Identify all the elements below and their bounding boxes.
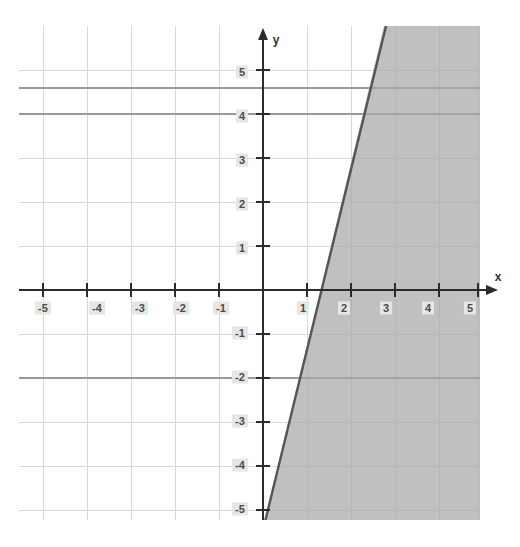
y-tick-label--1: -1 [232, 327, 248, 340]
graph-canvas [0, 0, 520, 547]
x-tick-label-2: 2 [338, 302, 350, 315]
x-tick-label-5: 5 [464, 302, 476, 315]
x-tick-label--2: -2 [173, 302, 189, 315]
y-tick-label--2: -2 [232, 371, 248, 384]
y-tick-label--5: -5 [232, 503, 248, 516]
x-tick-label--5: -5 [35, 302, 51, 315]
x-tick-label-4: 4 [422, 302, 434, 315]
y-tick-label--4: -4 [232, 459, 248, 472]
x-tick-label--3: -3 [132, 302, 148, 315]
y-tick-label-1: 1 [236, 242, 248, 255]
x-axis-label: x [495, 270, 502, 284]
coordinate-graph: -5 -4 -3 -2 -1 1 2 3 4 5 5 4 3 2 1 -1 -2… [0, 0, 520, 547]
y-tick-label-2: 2 [236, 198, 248, 211]
y-tick-label-3: 3 [236, 154, 248, 167]
y-tick-label-5: 5 [236, 66, 248, 79]
y-tick-label--3: -3 [232, 415, 248, 428]
y-tick-label-4: 4 [236, 110, 248, 123]
x-tick-label-1: 1 [297, 302, 309, 315]
x-tick-label--1: -1 [213, 302, 229, 315]
x-tick-label--4: -4 [89, 302, 105, 315]
y-axis-label: y [273, 33, 280, 47]
x-tick-label-3: 3 [380, 302, 392, 315]
